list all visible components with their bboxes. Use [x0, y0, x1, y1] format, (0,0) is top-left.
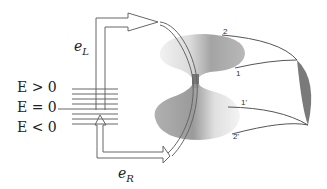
left-mover-arrow — [96, 13, 158, 110]
edge-label-2: 2 — [223, 27, 227, 36]
hourglass-cones — [155, 34, 245, 140]
energy-levels — [58, 89, 118, 124]
edge-label-1-prime: 1' — [241, 98, 247, 107]
energy-negative-label: E < 0 — [17, 119, 57, 135]
energy-positive-label: E > 0 — [17, 79, 57, 95]
right-mover-label: eR — [118, 165, 134, 184]
right-mover-label-sub: R — [126, 173, 134, 184]
edge-label-2-prime: 2' — [233, 132, 239, 141]
energy-zero-label: E = 0 — [17, 99, 57, 115]
left-mover-label: eL — [74, 38, 89, 57]
left-mover-label-sub: L — [82, 46, 89, 57]
edge-label-1: 1 — [236, 69, 240, 78]
